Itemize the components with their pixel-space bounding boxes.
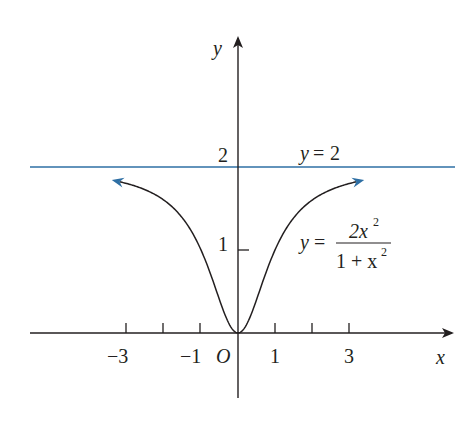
svg-text:y: y <box>298 142 309 165</box>
origin-label: O <box>216 345 230 367</box>
svg-text:1 + x: 1 + x <box>336 250 377 272</box>
x-tick-label-3: 3 <box>344 345 354 367</box>
x-tick-label-1: 1 <box>270 345 280 367</box>
svg-text:y: y <box>298 231 309 254</box>
y-tick-label-2: 2 <box>218 144 228 166</box>
svg-text:=: = <box>313 142 324 164</box>
function-graph: y x O −3 −1 1 3 1 2 y = 2 y = 2x 2 1 + x… <box>0 0 472 422</box>
x-tick-label-neg1: −1 <box>180 345 201 367</box>
y-axis-label: y <box>211 37 222 60</box>
svg-text:=: = <box>314 231 325 253</box>
svg-text:2: 2 <box>330 142 340 164</box>
svg-text:2x: 2x <box>349 220 368 242</box>
asymptote-label: y = 2 <box>298 142 340 165</box>
function-label: y = 2x 2 1 + x 2 <box>298 215 391 272</box>
svg-text:2: 2 <box>381 245 387 259</box>
svg-text:2: 2 <box>373 215 379 229</box>
x-axis-label: x <box>435 346 445 368</box>
y-tick-label-1: 1 <box>218 233 228 255</box>
x-tick-label-neg3: −3 <box>107 345 128 367</box>
